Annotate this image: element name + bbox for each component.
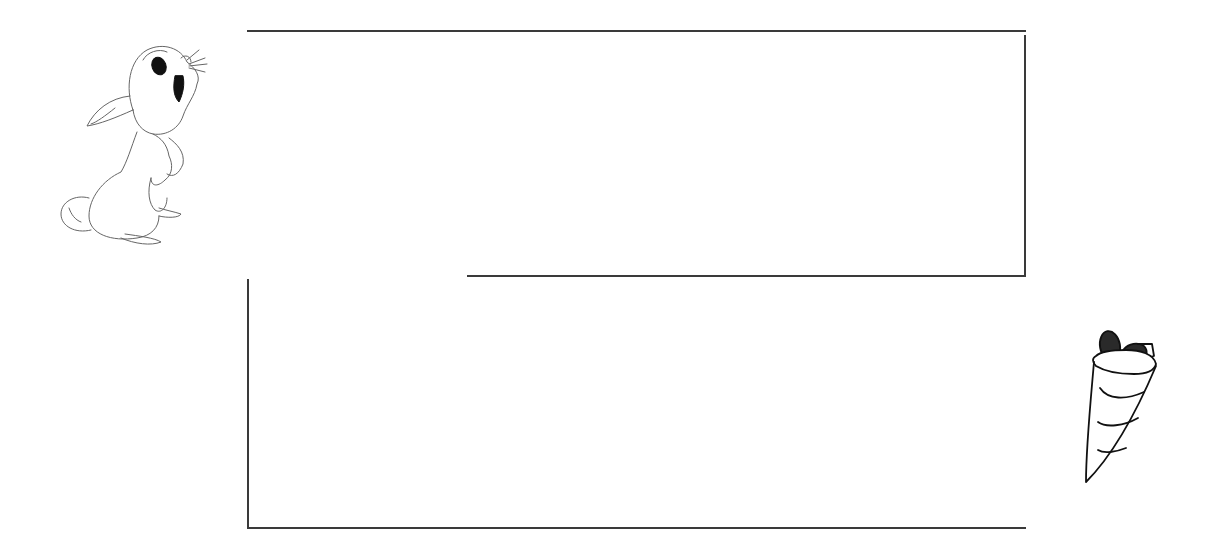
rabbit-icon [55, 38, 215, 248]
maze-wall-bottom [247, 527, 1026, 529]
maze-wall-right-upper [1024, 35, 1026, 277]
carrot-icon [1082, 328, 1162, 488]
maze-wall-middle [467, 275, 1026, 277]
maze-wall-top [247, 30, 1026, 32]
maze-wall-left-lower [247, 279, 249, 529]
